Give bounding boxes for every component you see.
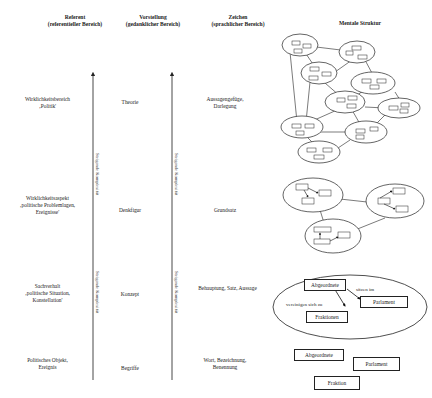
complexity-label-right: Steigende Komplexität bbox=[174, 153, 179, 195]
complexity-label-left: Steigende Komplexität bbox=[95, 153, 100, 195]
complexity-label-right-2: Steigende Komplexität bbox=[174, 271, 179, 313]
word-box-abgeordnete: Abgeordnete bbox=[294, 349, 344, 361]
concept-edge-vereinigen: vereinigen sich zu bbox=[286, 302, 322, 307]
concept-node-fraktionen: Fraktionen bbox=[306, 311, 348, 323]
word-box-parlament: Parlament bbox=[353, 357, 400, 371]
complexity-label-left-2: Steigende Komplexität bbox=[95, 271, 100, 313]
concept-node-parlament: Parlament bbox=[360, 296, 408, 308]
diagram-graphics bbox=[0, 0, 432, 398]
word-box-fraktion: Fraktion bbox=[314, 376, 360, 390]
concept-edge-sitzen-im: sitzen im bbox=[356, 287, 374, 292]
concept-node-abgeordnete: Abgeordnete bbox=[304, 279, 346, 291]
